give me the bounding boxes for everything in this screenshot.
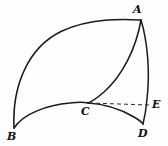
- curve-A-to-C: [88, 20, 141, 103]
- figure-canvas: [0, 0, 168, 146]
- vertex-label-a: A: [133, 4, 142, 15]
- arc-C-to-D: [88, 103, 143, 124]
- geometry-figure: A B C D E: [0, 0, 168, 146]
- curve-A-to-D: [141, 20, 148, 124]
- vertex-label-c: C: [81, 106, 90, 117]
- arc-B-to-C: [14, 102, 88, 128]
- vertex-label-d: D: [138, 128, 148, 139]
- vertex-label-b: B: [7, 131, 16, 142]
- vertex-label-e: E: [152, 99, 160, 110]
